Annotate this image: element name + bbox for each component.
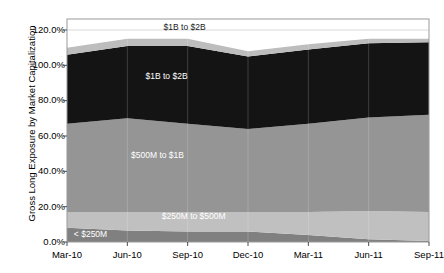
x-axis-tick-marks [67, 242, 429, 246]
band-label: $1B to $2B [164, 22, 206, 32]
x-tick-label: Dec-10 [233, 249, 264, 260]
band-label: < $250M [74, 229, 107, 239]
x-tick-label: Sep-11 [414, 249, 444, 260]
x-tick-label: Mar-11 [294, 249, 323, 260]
stacked-area-chart: Gross Long Exposure by Market Capitaliza… [0, 0, 444, 273]
x-tick-label: Sep-10 [172, 249, 203, 260]
x-tick-label: Jun-10 [113, 249, 142, 260]
stacked-bands [67, 19, 429, 242]
y-axis-tick-marks [63, 30, 67, 242]
x-tick-label: Mar-10 [52, 249, 82, 260]
band-label: $250M to $500M [162, 211, 226, 221]
plot-area [0, 0, 444, 273]
band-label: $1B to $2B [146, 71, 188, 81]
x-tick-label: Jun-11 [354, 249, 382, 260]
band-label: $500M to $1B [131, 150, 184, 160]
